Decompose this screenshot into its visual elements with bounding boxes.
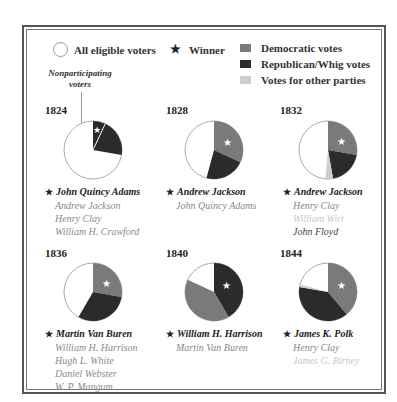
circle-icon [53,42,68,57]
candidates-1836: ★Martin Van Buren William H. Harrison Hu… [45,327,138,393]
candidate-name: Hugh L. White [45,354,138,367]
annotation-line2: voters [43,79,117,90]
winner-name: ★William H. Harrison [166,327,262,341]
pie-1832: ★ [296,118,360,182]
candidate-name: John Quincy Adams [166,199,256,212]
winner-name: ★Andrew Jackson [283,185,363,199]
legend-eligible: All eligible voters [53,42,156,57]
candidates-1824: ★John Quincy Adams Andrew Jackson Henry … [45,185,140,238]
candidate-name: Daniel Webster [45,367,138,380]
star-icon: ★ [45,187,53,197]
candidate-name: Martin Van Buren [166,341,262,354]
legend-other: Votes for other parties [240,74,366,86]
star-icon: ★ [166,329,174,339]
year-1824: 1824 [45,104,67,116]
candidate-name: W. P. Mangum [45,380,138,393]
winner-star-icon: ★ [337,136,346,147]
winner-name: ★Andrew Jackson [166,185,256,199]
winner-name: ★Martin Van Buren [45,327,138,341]
winner-label: Martin Van Buren [56,328,132,339]
year-1840: 1840 [166,247,188,259]
legend-democratic-label: Democratic votes [261,42,342,54]
year-1828: 1828 [166,104,188,116]
year-1844: 1844 [280,247,302,259]
year-1832: 1832 [280,104,302,116]
star-icon: ★ [45,329,53,339]
legend-winner: ★ Winner [170,42,225,57]
winner-name: ★John Quincy Adams [45,185,140,199]
winner-star-icon: ★ [102,278,111,289]
candidate-name: William H. Crawford [45,225,140,238]
pie-1836: ★ [61,260,125,324]
democratic-swatch [240,44,251,52]
legend-winner-label: Winner [189,44,225,56]
winner-star-icon: ★ [222,280,231,291]
star-icon: ★ [170,42,181,57]
nonparticipating-annotation: Nonparticipating voters [43,68,117,90]
candidates-1828: ★Andrew Jackson John Quincy Adams [166,185,256,212]
candidates-1840: ★William H. Harrison Martin Van Buren [166,327,262,354]
winner-star-icon: ★ [93,125,101,135]
pie-1840: ★ [182,260,246,324]
winner-star-icon: ★ [337,280,346,291]
winner-label: William H. Harrison [177,328,262,339]
star-icon: ★ [166,187,174,197]
candidate-name: Andrew Jackson [45,199,140,212]
candidate-name: William H. Harrison [45,341,138,354]
winner-label: John Quincy Adams [56,186,140,197]
legend-republican-label: Republican/Whig votes [261,58,370,70]
legend-republican: Republican/Whig votes [240,58,370,70]
year-1836: 1836 [45,247,67,259]
winner-label: James K. Polk [294,328,353,339]
candidate-name: James G. Birney [283,354,359,367]
pie-1828: ★ [182,118,246,182]
candidate-name: John Floyd [283,225,363,238]
annotation-line1: Nonparticipating [43,68,117,79]
candidate-name: Henry Clay [283,199,363,212]
republican-swatch [240,60,251,68]
legend-democratic: Democratic votes [240,42,342,54]
other-swatch [240,76,251,84]
candidates-1832: ★Andrew Jackson Henry Clay William Wirt … [283,185,363,238]
star-icon: ★ [283,187,291,197]
legend-eligible-label: All eligible voters [74,44,156,56]
winner-name: ★James K. Polk [283,327,359,341]
star-icon: ★ [283,329,291,339]
candidate-name: Henry Clay [45,212,140,225]
pie-1844: ★ [296,260,360,324]
legend-other-label: Votes for other parties [261,74,366,86]
winner-label: Andrew Jackson [294,186,363,197]
candidate-name: Henry Clay [283,341,359,354]
winner-star-icon: ★ [223,137,232,148]
pie-1824: ★ [61,118,125,182]
candidates-1844: ★James K. Polk Henry Clay James G. Birne… [283,327,359,367]
winner-label: Andrew Jackson [177,186,246,197]
candidate-name: William Wirt [283,212,363,225]
